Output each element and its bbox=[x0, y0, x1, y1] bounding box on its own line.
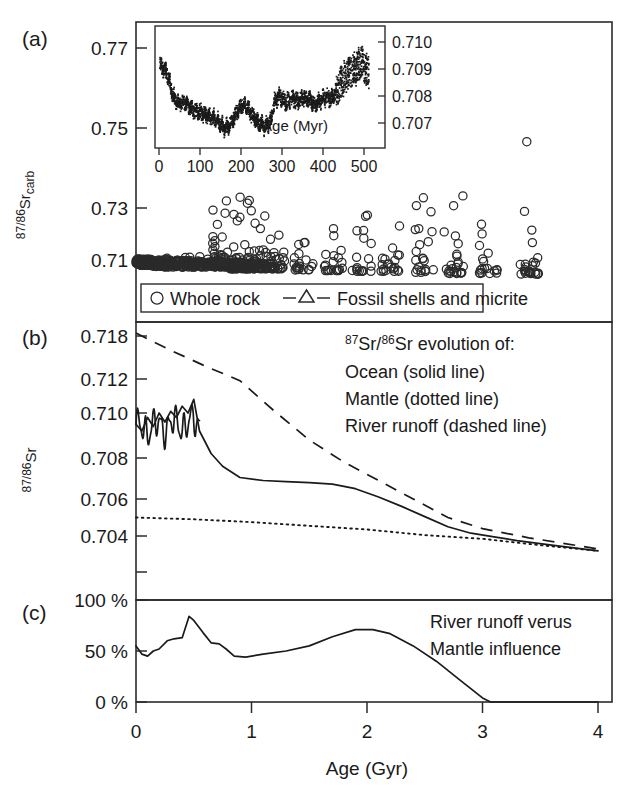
inset-data-point bbox=[354, 51, 356, 53]
inset-data-point bbox=[355, 82, 357, 84]
inset-data-point bbox=[234, 118, 236, 120]
inset-data-point bbox=[234, 107, 236, 109]
inset-data-point bbox=[346, 79, 348, 81]
xtick-3: 3 bbox=[477, 721, 488, 742]
inset-data-point bbox=[365, 81, 367, 83]
inset-data-point bbox=[336, 104, 338, 106]
inset-data-point bbox=[348, 58, 350, 60]
inset-data-point bbox=[288, 96, 290, 98]
inset-data-point bbox=[328, 90, 330, 92]
inset-data-point bbox=[363, 68, 365, 70]
inset-data-point bbox=[220, 121, 222, 123]
inset-data-point bbox=[346, 61, 348, 63]
inset-data-point bbox=[309, 102, 311, 104]
inset-data-point bbox=[234, 112, 236, 114]
inset-data-point bbox=[197, 111, 199, 113]
panel-b-ytick-5: 0.704 bbox=[80, 526, 128, 547]
inset-data-point bbox=[169, 75, 171, 77]
inset-data-point bbox=[281, 99, 283, 101]
inset-data-point bbox=[365, 55, 367, 57]
inset-data-point bbox=[342, 92, 344, 94]
inset-data-point bbox=[350, 70, 352, 72]
inset-data-point bbox=[344, 71, 346, 73]
inset-data-point bbox=[363, 80, 365, 82]
inset-data-point bbox=[368, 75, 370, 77]
inset-data-point bbox=[331, 93, 333, 95]
inset-data-point bbox=[348, 76, 350, 78]
inset-data-point bbox=[197, 107, 199, 109]
inset-data-point bbox=[293, 93, 295, 95]
inset-data-point bbox=[320, 108, 322, 110]
inset-data-point bbox=[191, 110, 193, 112]
inset-data-point bbox=[277, 104, 279, 106]
inset-data-point bbox=[277, 94, 279, 96]
inset-data-point bbox=[242, 106, 244, 108]
inset-data-point bbox=[179, 98, 181, 100]
inset-data-point bbox=[338, 79, 340, 81]
inset-data-point bbox=[358, 74, 360, 76]
inset-data-point bbox=[231, 124, 233, 126]
inset-data-point bbox=[326, 87, 328, 89]
inset-data-point bbox=[244, 97, 246, 99]
inset-data-point bbox=[191, 101, 193, 103]
inset-xtick-4: 400 bbox=[310, 158, 337, 175]
inset-data-point bbox=[212, 111, 214, 113]
inset-data-point bbox=[345, 73, 347, 75]
inset-data-point bbox=[344, 89, 346, 91]
inset-data-point bbox=[257, 121, 259, 123]
inset-data-point bbox=[280, 101, 282, 103]
inset-data-point bbox=[281, 106, 283, 108]
inset-data-point bbox=[188, 105, 190, 107]
inset-data-point bbox=[291, 91, 293, 93]
inset-data-point bbox=[307, 95, 309, 97]
inset-data-point bbox=[256, 117, 258, 119]
inset-data-point bbox=[342, 69, 344, 71]
inset-data-point bbox=[339, 72, 341, 74]
inset-data-point bbox=[324, 107, 326, 109]
inset-data-point bbox=[278, 100, 280, 102]
inset-data-point bbox=[306, 105, 308, 107]
panel-b-ytick-2: 0.710 bbox=[80, 403, 128, 424]
inset-data-point bbox=[324, 104, 326, 106]
inset-data-point bbox=[340, 84, 342, 86]
inset-data-point bbox=[299, 105, 301, 107]
inset-data-point bbox=[245, 110, 247, 112]
inset-data-point bbox=[284, 93, 286, 95]
inset-data-point bbox=[346, 83, 348, 85]
inset-data-point bbox=[189, 108, 191, 110]
inset-data-point bbox=[233, 123, 235, 125]
inset-data-point bbox=[164, 64, 166, 66]
panel-b-ytick-3: 0.708 bbox=[80, 448, 128, 469]
inset-data-point bbox=[340, 96, 342, 98]
inset-data-point bbox=[311, 95, 313, 97]
inset-data-point bbox=[287, 91, 289, 93]
inset-data-point bbox=[346, 91, 348, 93]
inset-data-point bbox=[216, 124, 218, 126]
inset-data-point bbox=[273, 108, 275, 110]
inset-data-point bbox=[226, 124, 228, 126]
inset-data-point bbox=[350, 60, 352, 62]
inset-data-point bbox=[348, 81, 350, 83]
inset-data-point bbox=[347, 68, 349, 70]
inset-data-point bbox=[303, 96, 305, 98]
inset-data-point bbox=[340, 77, 342, 79]
inset-data-point bbox=[335, 87, 337, 89]
inset-data-point bbox=[349, 62, 351, 64]
inset-data-point bbox=[342, 82, 344, 84]
inset-data-point bbox=[225, 122, 227, 124]
inset-data-point bbox=[358, 72, 360, 74]
inset-data-point bbox=[315, 103, 317, 105]
inset-data-point bbox=[368, 74, 370, 76]
inset-data-point bbox=[344, 62, 346, 64]
inset-data-point bbox=[219, 130, 221, 132]
inset-data-point bbox=[209, 112, 211, 114]
inset-data-point bbox=[356, 52, 358, 54]
inset-data-point bbox=[218, 125, 220, 127]
inset-data-point bbox=[343, 96, 345, 98]
inset-data-point bbox=[366, 73, 368, 75]
inset-data-point bbox=[325, 100, 327, 102]
inset-data-point bbox=[180, 111, 182, 113]
inset-data-point bbox=[309, 104, 311, 106]
inset-data-point bbox=[322, 98, 324, 100]
inset-data-point bbox=[285, 108, 287, 110]
